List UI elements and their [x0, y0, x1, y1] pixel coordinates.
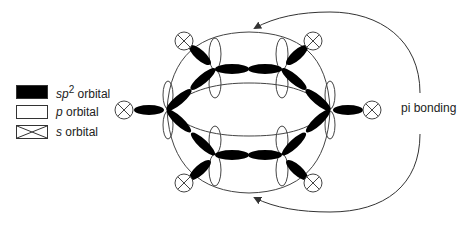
legend: sp2 orbital p orbital s orbital [16, 82, 110, 142]
legend-label-p: p orbital [56, 105, 99, 119]
legend-item-p: p orbital [16, 102, 110, 122]
legend-item-s: s orbital [16, 122, 110, 142]
legend-label-sp2: sp2 orbital [56, 84, 110, 101]
pi-bonding-label: pi bonding [401, 101, 456, 115]
sp2-orbitals [134, 42, 363, 183]
legend-item-sp2: sp2 orbital [16, 82, 110, 102]
pi-cloud-rings [167, 32, 330, 193]
sp2-swatch-icon [16, 85, 48, 99]
legend-label-s: s orbital [56, 125, 98, 139]
s-swatch-icon [16, 125, 48, 139]
lower-pi-ring-inner [167, 110, 330, 136]
p-orbitals [163, 38, 335, 186]
p-swatch-icon [16, 105, 48, 119]
